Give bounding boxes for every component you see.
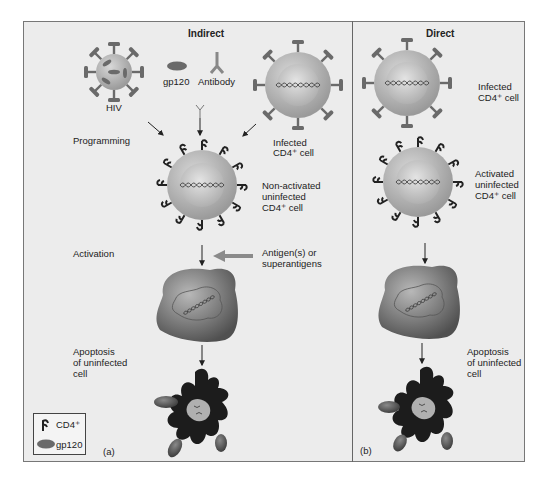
indirect-apoptosis-label-1: Apoptosis bbox=[73, 346, 115, 357]
activated-uninfected-cd4-cell-icon bbox=[373, 137, 462, 226]
indirect-title: Indirect bbox=[188, 28, 224, 39]
panel-a-label: (a) bbox=[103, 446, 115, 457]
direct-infected-label-1: Infected bbox=[478, 81, 512, 92]
hiv-virion-icon bbox=[84, 42, 144, 102]
antibody-icon bbox=[211, 52, 223, 73]
legend-gp120-label: gp120 bbox=[56, 439, 82, 450]
indirect-apoptosis-label-2: of uninfected bbox=[73, 357, 127, 368]
apoptotic-cell-icon bbox=[168, 369, 229, 444]
antigens-label-2: superantigens bbox=[262, 258, 322, 269]
direct-apoptosis-label-1: Apoptosis bbox=[467, 346, 509, 357]
indirect-apoptosis-label-3: cell bbox=[73, 368, 87, 379]
activated-label-3: CD4⁺ cell bbox=[475, 190, 516, 201]
hiv-label: HIV bbox=[106, 102, 122, 113]
direct-infected-label-2: CD4⁺ cell bbox=[478, 92, 519, 103]
activated-label-2: uninfected bbox=[475, 179, 519, 190]
direct-activated-cell-icon bbox=[379, 266, 460, 339]
non-activated-label-1: Non-activated bbox=[262, 180, 321, 191]
programming-label: Programming bbox=[73, 135, 130, 146]
antibody-small-icon bbox=[196, 105, 204, 118]
cd4-receptor-icon bbox=[38, 418, 50, 432]
gp120-fragment-icon bbox=[441, 432, 453, 450]
infected-cell-label-2: CD4⁺ cell bbox=[273, 147, 314, 158]
direct-infected-cd4-cell-icon bbox=[362, 38, 452, 128]
panel-b-label: (b) bbox=[360, 445, 372, 456]
legend: CD4⁺ gp120 bbox=[33, 413, 86, 455]
non-activated-cd4-cell-icon bbox=[157, 140, 246, 229]
legend-cd4-label: CD4⁺ bbox=[56, 419, 80, 430]
antigens-label-1: Antigen(s) or bbox=[262, 247, 316, 258]
non-activated-label-3: CD4⁺ cell bbox=[262, 202, 303, 213]
activation-label: Activation bbox=[73, 248, 114, 259]
activated-cell-icon bbox=[157, 269, 238, 342]
gp120-fragment-icon bbox=[154, 396, 178, 408]
direct-title: Direct bbox=[426, 28, 454, 39]
activated-label-1: Activated bbox=[475, 168, 514, 179]
direct-apoptotic-cell-icon bbox=[393, 367, 454, 442]
gp120-icon bbox=[36, 438, 56, 450]
direct-apoptosis-label-3: cell bbox=[467, 368, 481, 379]
gp120-icon bbox=[167, 62, 187, 71]
gp120-fragment-icon bbox=[165, 436, 185, 459]
antibody-label: Antibody bbox=[198, 76, 235, 87]
gp120-fragment-icon bbox=[378, 401, 400, 413]
non-activated-label-2: uninfected bbox=[262, 191, 306, 202]
antigen-arrow-icon bbox=[213, 250, 253, 262]
gp120-label: gp120 bbox=[163, 76, 189, 87]
infected-cd4-cell-icon bbox=[253, 40, 343, 130]
gp120-fragment-icon bbox=[215, 434, 227, 452]
direct-apoptosis-label-2: of uninfected bbox=[467, 357, 521, 368]
